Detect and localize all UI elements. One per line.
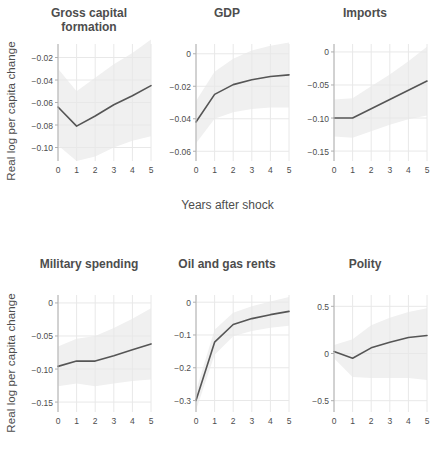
x-axis-tick-label: 1 <box>74 416 79 426</box>
y-axis-tick-label: 0.5 <box>317 302 329 312</box>
y-axis-label-top: Real log per capita change <box>0 18 22 203</box>
y-axis-tick-label: 0 <box>186 49 191 59</box>
plot-svg: 0−0.05−0.10−0.15012345 <box>22 289 156 434</box>
chart-row-bottom: Real log per capita change Military spen… <box>0 225 433 467</box>
y-axis-tick-label: −0.3 <box>174 396 191 406</box>
y-axis-tick-label: −0.10 <box>31 365 53 375</box>
y-axis-tick-label: 0 <box>324 349 329 359</box>
x-axis-tick-label: 0 <box>194 165 199 175</box>
x-axis-tick-label: 2 <box>369 165 374 175</box>
x-axis-tick-label: 1 <box>350 165 355 175</box>
y-axis-tick-label: −0.15 <box>31 398 53 408</box>
confidence-band <box>196 42 289 143</box>
x-axis-tick-label: 4 <box>130 416 135 426</box>
y-axis-tick-label: −0.04 <box>169 114 191 124</box>
x-axis-tick-label: 4 <box>268 165 273 175</box>
y-axis-tick-label: −0.08 <box>31 121 53 131</box>
x-axis-tick-label: 3 <box>111 416 116 426</box>
x-axis-tick-label: 3 <box>249 416 254 426</box>
x-axis-tick-label: 0 <box>194 416 199 426</box>
x-axis-tick-label: 4 <box>406 416 411 426</box>
y-axis-tick-label: −0.05 <box>307 80 329 90</box>
x-axis-label-top: Years after shock <box>22 198 433 212</box>
x-axis-tick-label: 5 <box>287 416 292 426</box>
x-axis-tick-label: 0 <box>332 416 337 426</box>
x-axis-tick-label: 2 <box>369 416 374 426</box>
x-axis-tick-label: 1 <box>74 165 79 175</box>
x-axis-tick-label: 5 <box>149 416 154 426</box>
y-axis-tick-label: −0.04 <box>31 76 53 86</box>
panel-title: Polity <box>298 257 432 271</box>
y-axis-label-top-text: Real log per capita change <box>5 41 17 180</box>
x-axis-tick-label: 3 <box>249 165 254 175</box>
y-axis-tick-label: −0.1 <box>174 330 191 340</box>
x-axis-tick-label: 5 <box>287 165 292 175</box>
plot-svg: 0−0.05−0.10−0.15012345 <box>298 38 432 183</box>
y-axis-tick-label: −0.06 <box>169 147 191 157</box>
plot-svg: −0.02−0.04−0.06−0.08−0.10012345 <box>22 38 156 183</box>
panel-title: Oil and gas rents <box>160 257 294 271</box>
x-axis-tick-label: 4 <box>406 165 411 175</box>
x-axis-tick-label: 1 <box>212 165 217 175</box>
x-axis-tick-label: 3 <box>387 165 392 175</box>
plot-area: 0−0.05−0.10−0.15012345 <box>22 289 156 434</box>
panel-title: Military spending <box>22 257 156 271</box>
x-axis-tick-label: 1 <box>212 416 217 426</box>
x-axis-tick-label: 0 <box>332 165 337 175</box>
x-axis-tick-label: 0 <box>56 416 61 426</box>
y-axis-tick-label: −0.15 <box>307 147 329 157</box>
confidence-band <box>334 47 427 138</box>
y-axis-tick-label: −0.10 <box>31 143 53 153</box>
confidence-band <box>58 308 151 386</box>
plot-area: 0−0.02−0.04−0.06012345 <box>160 38 294 183</box>
y-axis-tick-label: −0.05 <box>31 331 53 341</box>
y-axis-tick-label: −0.02 <box>169 82 191 92</box>
panel-title: Imports <box>298 6 432 20</box>
figure-panel-grid: Real log per capita change Gross capital… <box>0 0 433 467</box>
x-axis-tick-label: 2 <box>231 165 236 175</box>
x-axis-tick-label: 3 <box>111 165 116 175</box>
plot-area: 0−0.1−0.2−0.3012345 <box>160 289 294 434</box>
chart-row-top: Real log per capita change Gross capital… <box>0 0 433 225</box>
y-axis-tick-label: 0 <box>186 298 191 308</box>
plot-svg: 0.50−0.5012345 <box>298 289 432 434</box>
panel-title: Gross capital formation <box>22 6 156 34</box>
plot-area: 0−0.05−0.10−0.15012345 <box>298 38 432 183</box>
y-axis-tick-label: −0.02 <box>31 53 53 63</box>
plot-svg: 0−0.02−0.04−0.06012345 <box>160 38 294 183</box>
x-axis-tick-label: 5 <box>149 165 154 175</box>
plot-svg: 0−0.1−0.2−0.3012345 <box>160 289 294 434</box>
y-axis-tick-label: −0.06 <box>31 98 53 108</box>
x-axis-tick-label: 4 <box>130 165 135 175</box>
y-axis-tick-label: 0 <box>48 298 53 308</box>
x-axis-tick-label: 4 <box>268 416 273 426</box>
panel-title: GDP <box>160 6 294 20</box>
plot-area: −0.02−0.04−0.06−0.08−0.10012345 <box>22 38 156 183</box>
x-axis-tick-label: 0 <box>56 165 61 175</box>
x-axis-tick-label: 1 <box>350 416 355 426</box>
x-axis-tick-label: 2 <box>231 416 236 426</box>
y-axis-tick-label: −0.2 <box>174 363 191 373</box>
y-axis-tick-label: −0.5 <box>312 396 329 406</box>
y-axis-tick-label: 0 <box>324 47 329 57</box>
plot-area: 0.50−0.5012345 <box>298 289 432 434</box>
confidence-band <box>334 308 427 380</box>
y-axis-label-bottom: Real log per capita change <box>0 270 22 455</box>
x-axis-tick-label: 3 <box>387 416 392 426</box>
y-axis-tick-label: −0.10 <box>307 114 329 124</box>
x-axis-tick-label: 2 <box>93 416 98 426</box>
x-axis-tick-label: 5 <box>425 416 430 426</box>
x-axis-tick-label: 2 <box>93 165 98 175</box>
x-axis-tick-label: 5 <box>425 165 430 175</box>
y-axis-label-bottom-text: Real log per capita change <box>5 293 17 432</box>
